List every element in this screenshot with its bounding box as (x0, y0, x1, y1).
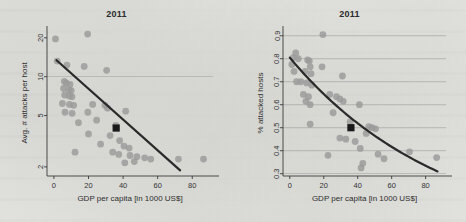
y-tick-label: 2 (37, 165, 46, 169)
data-point (372, 125, 379, 132)
data-point (97, 141, 104, 148)
data-point (306, 58, 313, 65)
data-point (52, 36, 59, 43)
data-point (295, 55, 302, 62)
data-point (69, 93, 76, 100)
data-point (115, 151, 122, 158)
data-point (147, 156, 154, 163)
x-axis-title: GDP per capita [in 1000 US$] (312, 194, 417, 203)
data-point (126, 145, 133, 152)
data-point (319, 63, 326, 70)
x-axis-title: GDP per capita [in 1000 US$] (77, 194, 182, 203)
y-tick-label: 0.5 (273, 123, 282, 133)
x-tick-label: 20 (84, 181, 92, 190)
data-point (75, 119, 82, 126)
data-point (352, 138, 359, 145)
data-point (103, 67, 110, 74)
data-point (85, 131, 92, 138)
y-tick-label: 20 (37, 34, 46, 42)
data-point (84, 31, 91, 38)
data-point (107, 132, 114, 139)
y-tick-label: 0.3 (273, 168, 282, 178)
two-panel-scatter-figure: 2011 251020020406080GDP per capita [in 1… (0, 0, 466, 222)
data-point (121, 159, 128, 166)
data-point (70, 102, 77, 109)
data-point (127, 152, 134, 159)
data-point (109, 149, 116, 156)
data-point (307, 63, 314, 70)
y-tick-label: 0.4 (273, 145, 282, 155)
data-point (291, 68, 298, 75)
data-point (336, 135, 343, 142)
data-point (81, 63, 88, 70)
y-tick-label: 0.7 (273, 77, 282, 87)
data-point (358, 165, 365, 172)
y-tick-label: 0.8 (273, 54, 282, 64)
data-point (381, 155, 388, 162)
x-tick-label: 20 (320, 181, 328, 190)
data-point (62, 109, 69, 116)
y-axis-title: Avg. # attacks per host (20, 62, 29, 144)
y-tick-label: 10 (37, 73, 46, 81)
data-point (357, 145, 364, 152)
data-point (433, 154, 440, 161)
data-point (297, 78, 304, 85)
data-point (200, 156, 207, 163)
y-tick-label: 5 (37, 113, 46, 117)
x-tick-label: 80 (421, 181, 429, 190)
data-point (175, 156, 182, 163)
data-point (342, 136, 349, 143)
x-tick-label: 0 (52, 181, 56, 190)
x-tick-label: 0 (288, 181, 292, 190)
panel-left-plot: 251020020406080GDP per capita [in 1000 U… (0, 0, 233, 222)
data-point (340, 98, 347, 105)
y-axis-title: % attacked hosts (256, 73, 265, 134)
data-point (356, 101, 363, 108)
x-tick-label: 40 (354, 181, 362, 190)
data-point (84, 109, 91, 116)
data-point (116, 137, 123, 144)
highlighted-country-marker (113, 124, 120, 131)
panel-right-plot: 0.30.40.50.60.70.80.9020406080GDP per ca… (233, 0, 466, 222)
data-point (59, 100, 66, 107)
data-point (308, 70, 315, 77)
highlighted-country-marker (347, 124, 354, 131)
panel-left-avg-attacks: 2011 251020020406080GDP per capita [in 1… (0, 0, 233, 222)
y-tick-label: 0.6 (273, 100, 282, 110)
data-point (330, 109, 337, 116)
data-point (375, 151, 382, 158)
x-tick-label: 40 (119, 181, 127, 190)
data-point (325, 152, 332, 159)
data-point (320, 31, 327, 38)
x-tick-label: 60 (153, 181, 161, 190)
panel-right-pct-attacked: 2011 0.30.40.50.60.70.80.9020406080GDP p… (233, 0, 466, 222)
x-tick-label: 60 (387, 181, 395, 190)
data-point (72, 149, 79, 156)
y-tick-label: 0.9 (273, 31, 282, 41)
data-point (307, 101, 314, 108)
data-point (131, 158, 138, 165)
data-point (93, 117, 100, 124)
data-point (69, 110, 76, 117)
data-point (122, 108, 129, 115)
data-point (89, 101, 96, 108)
data-point (339, 73, 346, 80)
data-point (307, 121, 314, 128)
data-point (141, 154, 148, 161)
x-tick-label: 80 (188, 181, 196, 190)
data-point (406, 148, 413, 155)
